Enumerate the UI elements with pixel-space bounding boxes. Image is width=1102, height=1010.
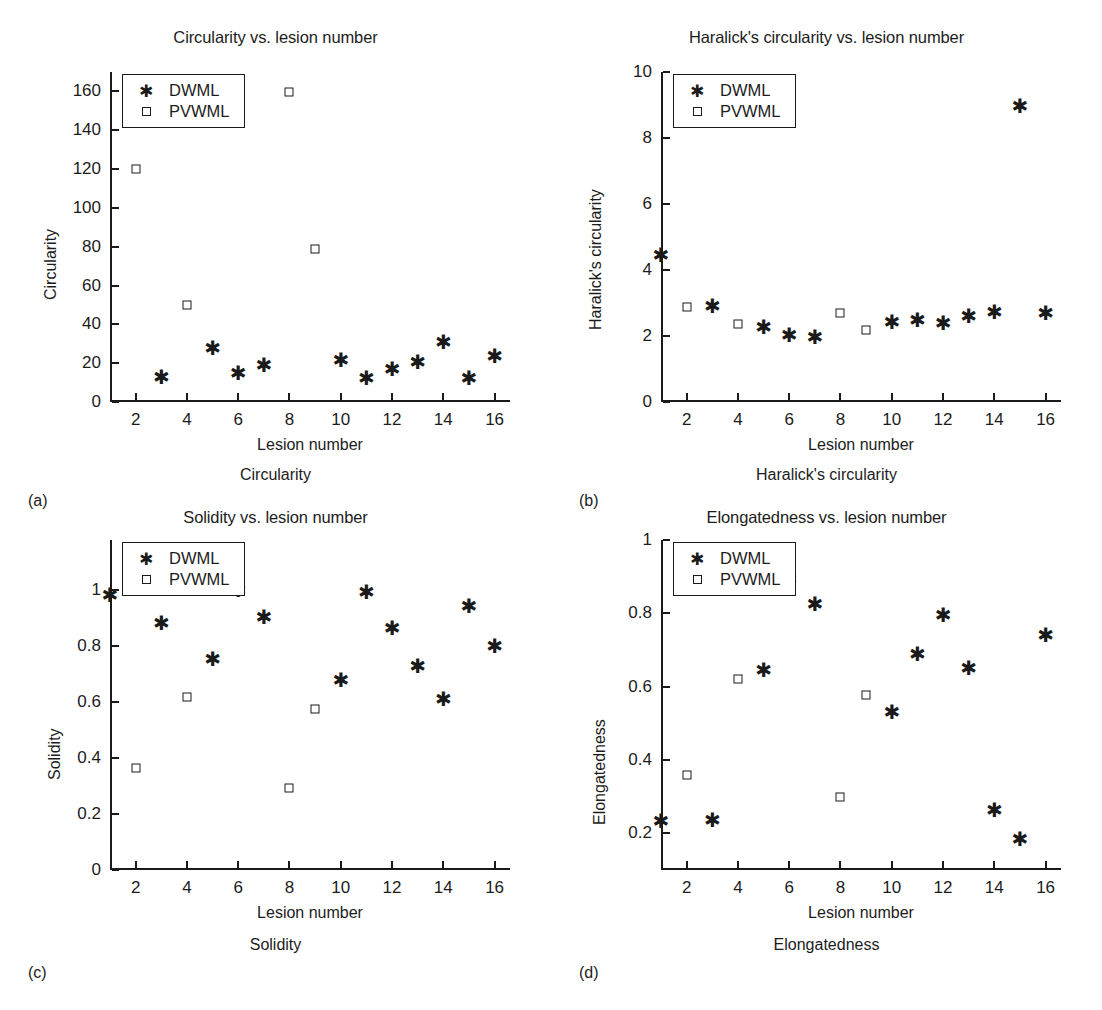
data-point-dwml: ✱ bbox=[409, 656, 426, 676]
x-axis-tick-label: 2 bbox=[131, 410, 140, 430]
legend: ✱DWMLPVWML bbox=[122, 542, 245, 596]
y-axis-tick bbox=[663, 832, 670, 834]
x-axis-tick bbox=[839, 861, 841, 868]
legend-item-dwml: ✱DWML bbox=[684, 80, 781, 101]
data-point-pvwml bbox=[311, 244, 320, 253]
data-point-dwml: ✱ bbox=[358, 582, 375, 602]
y-axis-tick-label: 0 bbox=[92, 860, 101, 880]
legend-item-dwml: ✱DWML bbox=[684, 548, 781, 569]
y-axis-line bbox=[110, 72, 112, 402]
x-axis-tick bbox=[186, 861, 188, 868]
legend-item-pvwml: PVWML bbox=[684, 569, 781, 590]
x-axis-tick bbox=[442, 861, 444, 868]
data-point-dwml: ✱ bbox=[358, 368, 375, 388]
y-axis-tick bbox=[112, 207, 119, 209]
data-point-pvwml bbox=[733, 320, 742, 329]
legend-symbol-star: ✱ bbox=[133, 81, 159, 101]
x-axis-tick bbox=[942, 861, 944, 868]
y-axis-label: Solidity bbox=[46, 728, 64, 780]
panel-d-letter: (d) bbox=[579, 964, 599, 982]
y-axis-tick bbox=[112, 757, 119, 759]
y-axis-tick bbox=[663, 759, 670, 761]
data-point-dwml: ✱ bbox=[653, 245, 670, 265]
legend-label: DWML bbox=[720, 81, 770, 100]
y-axis-tick-label: 6 bbox=[643, 194, 652, 214]
data-point-dwml: ✱ bbox=[1012, 829, 1029, 849]
x-axis-tick-label: 2 bbox=[682, 878, 691, 898]
legend-symbol-square bbox=[684, 575, 710, 584]
y-axis-tick-label: 120 bbox=[73, 159, 101, 179]
data-point-dwml: ✱ bbox=[960, 658, 977, 678]
legend-label: DWML bbox=[169, 81, 219, 100]
data-point-dwml: ✱ bbox=[704, 296, 721, 316]
data-point-pvwml bbox=[182, 692, 191, 701]
y-axis-tick-label: 60 bbox=[82, 276, 101, 296]
x-axis-tick-label: 4 bbox=[182, 878, 191, 898]
x-axis-tick bbox=[288, 393, 290, 400]
data-point-dwml: ✱ bbox=[909, 310, 926, 330]
panel-c: Solidity vs. lesion number 00.20.40.60.8… bbox=[0, 480, 551, 985]
y-axis-tick-label: 160 bbox=[73, 81, 101, 101]
data-point-pvwml bbox=[682, 770, 691, 779]
legend-item-pvwml: PVWML bbox=[133, 569, 230, 590]
y-axis-tick bbox=[663, 686, 670, 688]
y-axis-tick-label: 1 bbox=[643, 530, 652, 550]
x-axis-tick-label: 10 bbox=[882, 878, 901, 898]
star-marker-icon: ✱ bbox=[690, 81, 704, 101]
x-axis-line bbox=[110, 868, 510, 870]
x-axis-tick bbox=[391, 393, 393, 400]
x-axis-tick bbox=[891, 861, 893, 868]
y-axis-tick-label: 80 bbox=[82, 237, 101, 257]
data-point-dwml: ✱ bbox=[204, 338, 221, 358]
data-point-dwml: ✱ bbox=[935, 605, 952, 625]
square-marker-icon bbox=[693, 107, 702, 116]
legend: ✱DWMLPVWML bbox=[673, 74, 796, 128]
x-axis-tick bbox=[135, 861, 137, 868]
x-axis-label: Lesion number bbox=[661, 904, 1061, 922]
data-point-dwml: ✱ bbox=[935, 313, 952, 333]
x-axis-label: Lesion number bbox=[661, 436, 1061, 454]
y-axis-tick bbox=[112, 645, 119, 647]
data-point-dwml: ✱ bbox=[1037, 303, 1054, 323]
x-axis-tick-label: 8 bbox=[285, 878, 294, 898]
x-axis-tick bbox=[788, 393, 790, 400]
y-axis-tick-label: 0.4 bbox=[77, 748, 101, 768]
x-axis-tick bbox=[1045, 393, 1047, 400]
y-axis-tick-label: 8 bbox=[643, 128, 652, 148]
star-marker-icon: ✱ bbox=[139, 81, 153, 101]
x-axis-tick bbox=[391, 861, 393, 868]
y-axis-tick bbox=[663, 401, 670, 403]
y-axis-tick-label: 0 bbox=[92, 392, 101, 412]
x-axis-tick-label: 12 bbox=[383, 878, 402, 898]
x-axis-tick bbox=[993, 861, 995, 868]
square-marker-icon bbox=[693, 575, 702, 584]
y-axis-tick bbox=[112, 401, 119, 403]
data-point-dwml: ✱ bbox=[1037, 625, 1054, 645]
data-point-dwml: ✱ bbox=[1012, 96, 1029, 116]
data-point-dwml: ✱ bbox=[486, 636, 503, 656]
data-point-dwml: ✱ bbox=[384, 618, 401, 638]
x-axis-tick-label: 12 bbox=[934, 878, 953, 898]
data-point-pvwml bbox=[836, 792, 845, 801]
x-axis-tick-label: 6 bbox=[784, 878, 793, 898]
panel-b-plot-area: 0246810246810121416Lesion number✱✱✱✱✱✱✱✱… bbox=[661, 72, 1061, 402]
panel-c-letter: (c) bbox=[28, 964, 47, 982]
panel-a: Circularity vs. lesion number 0204060801… bbox=[0, 0, 551, 505]
y-axis-tick bbox=[112, 362, 119, 364]
square-marker-icon bbox=[142, 107, 151, 116]
data-point-dwml: ✱ bbox=[781, 325, 798, 345]
legend-label: PVWML bbox=[169, 102, 230, 121]
data-point-dwml: ✱ bbox=[883, 312, 900, 332]
data-point-pvwml bbox=[182, 300, 191, 309]
y-axis-tick bbox=[112, 90, 119, 92]
x-axis-tick-label: 2 bbox=[131, 878, 140, 898]
x-axis-tick bbox=[288, 861, 290, 868]
x-axis-line bbox=[110, 400, 510, 402]
x-axis-tick bbox=[135, 393, 137, 400]
data-point-dwml: ✱ bbox=[806, 327, 823, 347]
data-point-dwml: ✱ bbox=[486, 346, 503, 366]
legend-symbol-star: ✱ bbox=[684, 81, 710, 101]
data-point-pvwml bbox=[862, 690, 871, 699]
x-axis-label: Lesion number bbox=[110, 436, 510, 454]
data-point-dwml: ✱ bbox=[755, 317, 772, 337]
